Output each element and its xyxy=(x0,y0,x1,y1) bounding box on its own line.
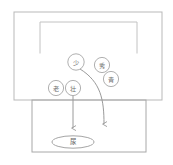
diagram-canvas: 少 秀 青 老 壮 尿 xyxy=(0,0,173,165)
node-shao[interactable]: 少 xyxy=(68,54,84,70)
node-qing-label: 青 xyxy=(108,76,114,84)
outlet-niao[interactable]: 尿 xyxy=(52,136,94,148)
arrow-curved-right xyxy=(80,69,104,124)
outlet-niao-label: 尿 xyxy=(70,138,77,146)
inner-bracket xyxy=(40,22,137,53)
node-lao[interactable]: 老 xyxy=(48,80,63,95)
lower-frame xyxy=(32,100,146,152)
diagram-svg: 少 秀 青 老 壮 尿 xyxy=(0,0,173,165)
node-zhuang-label: 壮 xyxy=(70,85,76,93)
node-shao-label: 少 xyxy=(73,59,79,66)
node-xiu-label: 秀 xyxy=(99,62,105,70)
outer-frame xyxy=(14,12,162,100)
node-lao-label: 老 xyxy=(53,85,59,92)
node-xiu[interactable]: 秀 xyxy=(94,57,109,72)
node-zhuang[interactable]: 壮 xyxy=(65,80,80,95)
node-qing[interactable]: 青 xyxy=(103,71,118,86)
